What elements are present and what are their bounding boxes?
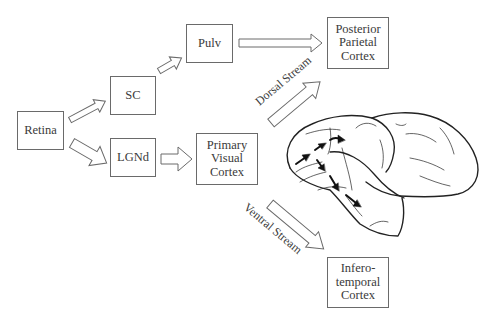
node-label-line: Posterior: [335, 23, 380, 37]
node-retina: Retina: [17, 111, 64, 150]
node-label-line: Cortex: [341, 50, 375, 64]
node-primary-visual-cortex: Primary Visual Cortex: [196, 133, 258, 185]
node-pulv: Pulv: [186, 24, 233, 63]
arrow-sc-to-pulv: [156, 52, 186, 77]
node-lgnd: LGNd: [110, 138, 156, 177]
node-label-line: Infero-: [341, 262, 376, 276]
arrow-retina-to-lgnd: [67, 133, 113, 172]
node-label-line: Parietal: [339, 36, 377, 50]
node-label-line: temporal: [336, 276, 380, 290]
node-label: Retina: [24, 124, 57, 138]
node-label-line: Visual: [211, 152, 243, 166]
node-inferotemporal-cortex: Infero- temporal Cortex: [327, 257, 389, 308]
node-label: Pulv: [198, 37, 221, 51]
node-label-line: Cortex: [210, 166, 244, 180]
node-posterior-parietal-cortex: Posterior Parietal Cortex: [327, 17, 389, 69]
node-label: SC: [125, 89, 140, 103]
node-label: LGNd: [117, 151, 149, 165]
brain-illustration: [287, 113, 478, 236]
visual-pathway-diagram: Retina SC LGNd Pulv Primary Visual Corte…: [0, 0, 485, 322]
arrow-lgnd-to-v1: [161, 147, 192, 171]
node-sc: SC: [110, 76, 156, 115]
arrow-pulv-to-ppc: [239, 34, 322, 52]
node-label-line: Primary: [207, 139, 247, 153]
arrow-retina-to-sc: [67, 95, 109, 126]
node-label-line: Cortex: [341, 289, 375, 303]
